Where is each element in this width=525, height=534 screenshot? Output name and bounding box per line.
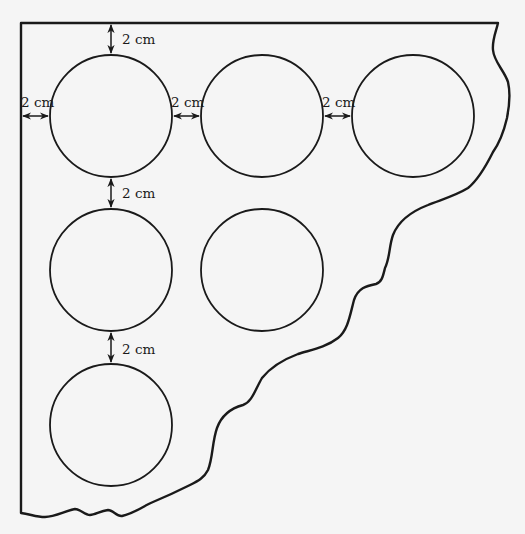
gap-row2-row3-label: 2 cm [122,341,155,357]
circle-row1-col2 [201,55,323,177]
sheet-outline [21,23,510,517]
gap-c1-c2-label: 2 cm [171,94,204,110]
circle-row2-col1 [50,209,172,331]
circle-row1-col1 [50,55,172,177]
circle-row1-col3 [352,55,474,177]
top-gap-label: 2 cm [122,31,155,47]
circle-row2-col2 [201,209,323,331]
left-gap-label: 2 cm [21,94,54,110]
circles-on-sheet-diagram: 2 cm 2 cm 2 cm 2 cm 2 cm 2 cm [0,0,525,534]
gap-c2-c3-label: 2 cm [322,94,355,110]
circle-row3-col1 [50,364,172,486]
gap-row1-row2-label: 2 cm [122,185,155,201]
